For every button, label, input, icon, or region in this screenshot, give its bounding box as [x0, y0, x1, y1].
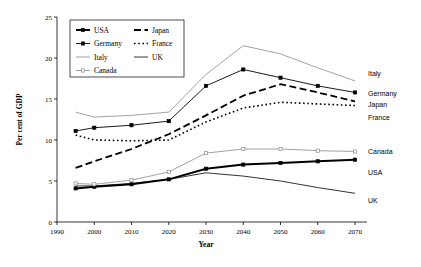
- line-chart: 0510152025199020002010202020302040205020…: [0, 0, 421, 267]
- y-tick-label: 10: [45, 137, 53, 145]
- data-point-marker: [93, 126, 96, 129]
- x-tick-label: 2020: [162, 228, 177, 236]
- y-axis-ticks: 0510152025: [45, 14, 57, 227]
- legend-marker: [81, 69, 84, 72]
- end-label-germany: Germany: [368, 90, 397, 98]
- x-tick-label: 2040: [236, 228, 251, 236]
- end-label-italy: Italy: [368, 70, 381, 78]
- legend-label: Germany: [94, 39, 122, 48]
- data-point-marker: [353, 158, 356, 161]
- y-tick-label: 20: [45, 55, 53, 63]
- end-label-uk: UK: [368, 197, 378, 204]
- legend-marker: [81, 42, 84, 45]
- series-line: [76, 173, 355, 194]
- series-france: [76, 102, 355, 141]
- series-germany: [74, 68, 357, 133]
- data-point-marker: [74, 129, 77, 132]
- series-uk: [76, 173, 355, 194]
- data-point-marker: [130, 179, 133, 182]
- data-point-marker: [279, 161, 282, 164]
- y-tick-label: 0: [49, 219, 53, 227]
- series-line: [76, 102, 355, 141]
- data-point-marker: [167, 120, 170, 123]
- y-tick-label: 5: [49, 178, 53, 186]
- x-axis-ticks: 199020002010202020302040205020602070: [50, 222, 363, 236]
- legend-label: Italy: [94, 53, 108, 62]
- data-point-marker: [204, 167, 207, 170]
- x-tick-label: 2070: [348, 228, 363, 236]
- x-tick-label: 2060: [311, 228, 326, 236]
- x-tick-label: 2000: [87, 228, 102, 236]
- y-axis-title: Per cent of GDP: [15, 93, 24, 146]
- end-labels: USAJapanGermanyFranceItalyUKCanada: [368, 70, 397, 204]
- end-label-japan: Japan: [368, 101, 387, 109]
- data-point-marker: [279, 76, 282, 79]
- end-label-canada: Canada: [368, 148, 393, 155]
- x-axis-title: Year: [199, 240, 215, 249]
- data-point-marker: [353, 91, 356, 94]
- data-point-marker: [93, 183, 96, 186]
- data-point-marker: [353, 150, 356, 153]
- x-tick-label: 1990: [50, 228, 65, 236]
- data-point-marker: [167, 170, 170, 173]
- y-tick-label: 15: [45, 96, 53, 104]
- legend: USAJapanGermanyFranceItalyUKCanada: [70, 20, 184, 77]
- legend-label: USA: [94, 26, 110, 35]
- end-label-france: France: [368, 114, 390, 121]
- legend-label: France: [152, 39, 173, 48]
- data-point-marker: [242, 163, 245, 166]
- y-tick-label: 25: [45, 14, 53, 22]
- x-tick-label: 2010: [125, 228, 140, 236]
- data-point-marker: [74, 187, 77, 190]
- data-point-marker: [316, 84, 319, 87]
- x-tick-label: 2030: [199, 228, 214, 236]
- legend-label: Japan: [152, 26, 169, 35]
- data-point-marker: [316, 149, 319, 152]
- x-tick-label: 2050: [274, 228, 289, 236]
- data-point-marker: [130, 124, 133, 127]
- end-label-usa: USA: [368, 169, 383, 176]
- data-point-marker: [242, 147, 245, 150]
- legend-label: UK: [152, 53, 163, 62]
- data-point-marker: [242, 68, 245, 71]
- data-point-marker: [204, 84, 207, 87]
- legend-marker: [81, 28, 84, 31]
- series-line: [76, 69, 355, 130]
- data-point-marker: [279, 147, 282, 150]
- chart-container: 0510152025199020002010202020302040205020…: [0, 0, 421, 267]
- legend-label: Canada: [94, 66, 117, 75]
- data-point-marker: [316, 160, 319, 163]
- data-point-marker: [204, 152, 207, 155]
- series-usa: [74, 158, 357, 190]
- data-point-marker: [74, 182, 77, 185]
